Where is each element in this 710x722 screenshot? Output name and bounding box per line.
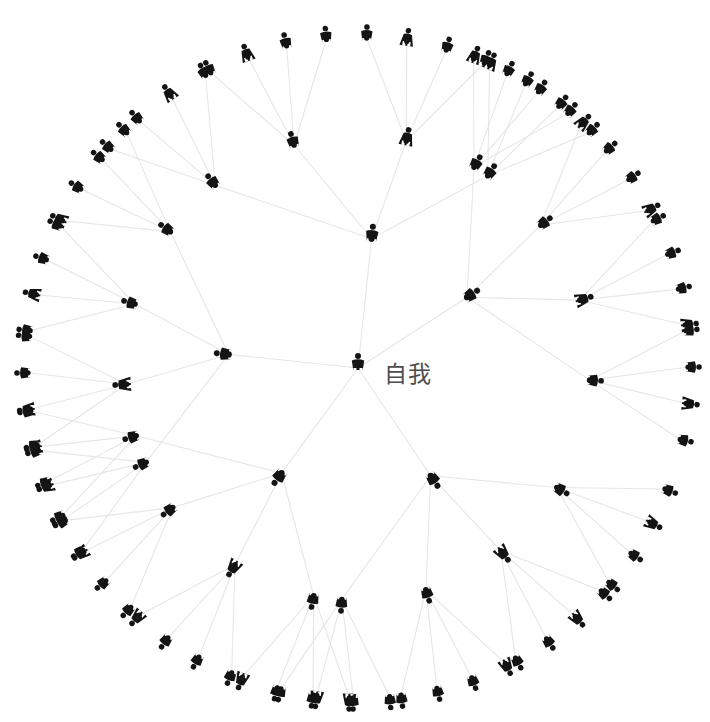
person-icon-female: [574, 289, 596, 308]
node-person-level3[interactable]: [643, 514, 665, 534]
person-body: [22, 405, 34, 418]
person-body: [20, 367, 31, 379]
person-head: [388, 704, 394, 710]
node-person-level3[interactable]: [509, 653, 527, 673]
node-self[interactable]: [352, 353, 364, 371]
edge-level2-to-level3: [199, 565, 235, 657]
edge-level2-to-level3: [139, 565, 235, 615]
person-head: [436, 696, 443, 703]
person-icon-female: [643, 514, 665, 534]
node-person-level3[interactable]: [237, 42, 256, 63]
node-person-level3[interactable]: [221, 668, 238, 688]
edge-level2-to-level3: [314, 596, 350, 698]
node-person-level2[interactable]: [120, 294, 140, 310]
node-person-level3[interactable]: [384, 693, 397, 711]
person-body: [320, 31, 332, 43]
node-person-level3[interactable]: [663, 244, 682, 260]
person-body: [398, 131, 414, 146]
node-person-level2[interactable]: [587, 374, 605, 387]
node-person-level3[interactable]: [641, 198, 663, 219]
person-icon-male: [501, 59, 519, 79]
node-person-level2[interactable]: [335, 596, 348, 614]
person-body: [384, 693, 396, 705]
person-head: [213, 350, 220, 357]
person-head: [686, 283, 693, 290]
person-body: [465, 673, 479, 687]
node-person-level3[interactable]: [278, 31, 293, 50]
person-body: [587, 374, 599, 386]
edge-level2-to-level3: [541, 125, 581, 225]
edge-level2-to-level3: [557, 487, 650, 522]
person-icon-male: [187, 652, 205, 672]
node-person-level3[interactable]: [21, 285, 42, 302]
node-person-level3[interactable]: [319, 25, 332, 43]
person-icon-male: [660, 483, 680, 500]
edge-level2-to-level3: [426, 590, 437, 689]
person-body: [352, 359, 364, 371]
node-person-level3[interactable]: [465, 673, 481, 692]
node-person-level3[interactable]: [501, 59, 519, 79]
person-icon-male: [623, 167, 643, 186]
person-head: [322, 26, 328, 32]
node-person-level2[interactable]: [574, 289, 596, 308]
node-person-level3[interactable]: [395, 692, 408, 710]
edge-level1-to-level2: [467, 225, 541, 297]
person-icon-male: [365, 223, 379, 242]
node-person-level3[interactable]: [519, 69, 537, 89]
edge-level2-to-level3: [541, 211, 648, 226]
edge-level2-to-level3: [168, 565, 235, 638]
person-body: [118, 377, 132, 392]
person-body: [22, 324, 34, 337]
node-person-level2[interactable]: [222, 557, 244, 580]
node-person-level1[interactable]: [213, 347, 232, 361]
person-head: [693, 320, 699, 326]
person-icon-male: [221, 668, 238, 688]
edge-level2-to-level3: [38, 436, 137, 447]
node-person-level3[interactable]: [685, 361, 702, 372]
edge-level2-to-level3: [474, 74, 507, 168]
edge-level2-to-level3: [342, 599, 390, 696]
node-person-level3[interactable]: [431, 684, 446, 703]
node-person-level3[interactable]: [155, 632, 174, 652]
person-body: [395, 692, 408, 704]
person-body: [643, 514, 660, 532]
node-person-level3[interactable]: [623, 167, 643, 186]
node-person-level3[interactable]: [676, 433, 695, 448]
node-person-level3[interactable]: [540, 633, 559, 653]
edge-level2-to-level3: [211, 73, 294, 145]
node-person-level3[interactable]: [14, 367, 31, 379]
edge-level1-to-level2: [235, 473, 282, 565]
node-person-level1[interactable]: [365, 223, 379, 242]
node-person-level3[interactable]: [440, 35, 455, 54]
edge-level2-to-level3: [590, 367, 688, 380]
edge-level1-to-level2: [431, 476, 557, 488]
node-person-level3[interactable]: [31, 250, 50, 266]
node-person-level3[interactable]: [660, 483, 680, 500]
node-person-level3[interactable]: [532, 77, 551, 97]
node-person-level3[interactable]: [674, 280, 693, 295]
node-person-level3[interactable]: [361, 24, 373, 41]
node-person-level3[interactable]: [187, 652, 205, 672]
node-person-level2[interactable]: [121, 429, 141, 445]
person-body: [676, 433, 689, 446]
node-person-level3[interactable]: [113, 119, 133, 139]
edge-level2-to-level3: [426, 590, 472, 678]
edge-level2-to-level3: [131, 508, 173, 608]
person-icon-female: [21, 285, 42, 302]
node-person-level3[interactable]: [66, 177, 86, 196]
person-head: [399, 703, 405, 709]
node-person-level3[interactable]: [158, 81, 179, 103]
node-person-level3[interactable]: [399, 27, 415, 47]
edge-level2-to-level3: [557, 487, 631, 553]
person-icon-male: [685, 361, 702, 372]
node-person-level2[interactable]: [112, 377, 131, 392]
node-person-level2[interactable]: [419, 585, 435, 605]
edge-level2-to-level3: [127, 133, 171, 232]
edge-level2-to-level3: [81, 189, 171, 232]
node-person-level3[interactable]: [681, 396, 700, 411]
node-person-level2[interactable]: [202, 170, 222, 191]
node-person-level3[interactable]: [626, 547, 646, 566]
edge-self-to-level1: [358, 239, 372, 368]
edge-level2-to-level3: [580, 289, 679, 300]
edge-level2-to-level3: [580, 221, 653, 300]
